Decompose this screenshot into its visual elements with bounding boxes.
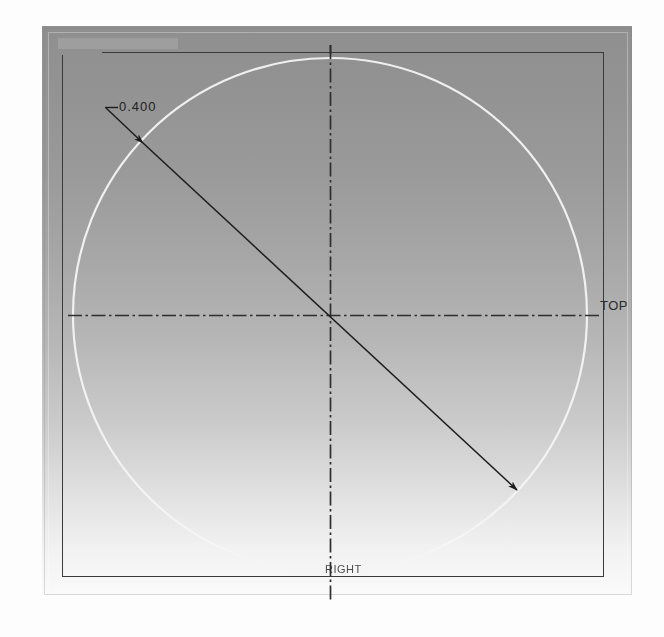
dimension-value-label[interactable]: 0.400	[119, 99, 157, 114]
view-label-top[interactable]: TOP	[600, 298, 628, 313]
cad-drawing-canvas[interactable]	[0, 0, 664, 637]
view-label-bottom[interactable]: RIGHT	[325, 563, 362, 575]
screenshot-root: 0.400 TOP RIGHT	[0, 0, 664, 637]
